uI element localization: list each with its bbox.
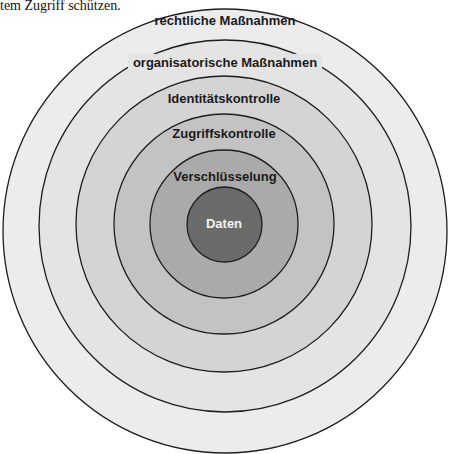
label-daten: Daten bbox=[206, 216, 242, 231]
label-identitaet: Identitätskontrolle bbox=[168, 91, 281, 106]
security-layers-diagram: rechtliche Maßnahmen organisatorische Ma… bbox=[0, 0, 451, 454]
label-zugriff: Zugriffskontrolle bbox=[172, 126, 275, 141]
label-verschluesselung: Verschlüsselung bbox=[173, 169, 276, 184]
label-organisatorische: organisatorische Maßnahmen bbox=[133, 55, 317, 70]
label-rechtliche: rechtliche Maßnahmen bbox=[155, 13, 296, 28]
